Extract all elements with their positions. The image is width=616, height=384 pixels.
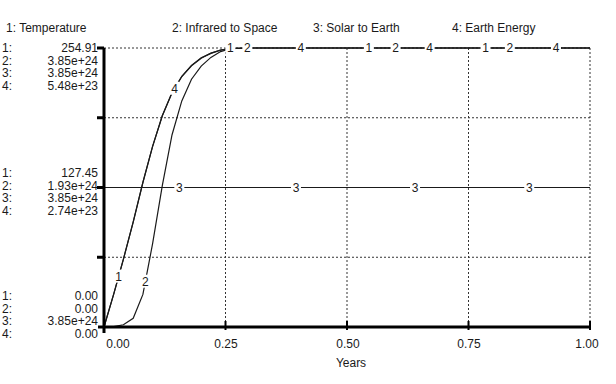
series-marker-2: 2	[392, 41, 399, 55]
series-marker-2: 2	[142, 275, 149, 289]
series-marker-3: 3	[176, 181, 183, 195]
x-tick-label: 0.00	[106, 337, 129, 351]
x-tick-label: 0.25	[214, 337, 237, 351]
series-marker-4: 4	[171, 82, 178, 96]
series-marker-4: 4	[553, 41, 560, 55]
x-tick-label: 0.50	[336, 337, 359, 351]
series-marker-3: 3	[412, 181, 419, 195]
series-marker-1: 1	[366, 41, 373, 55]
series-marker-2: 2	[506, 41, 513, 55]
series-marker-2: 2	[244, 41, 251, 55]
series-marker-1: 1	[482, 41, 489, 55]
series-marker-1: 1	[115, 270, 122, 284]
x-tick-label: 1.00	[575, 337, 598, 351]
series-marker-1: 1	[227, 41, 234, 55]
plot-area: 1111222233334444	[0, 0, 616, 384]
series-marker-3: 3	[293, 181, 300, 195]
line-chart: 1: Temperature 2: Infrared to Space 3: S…	[0, 0, 616, 384]
x-tick-label: 0.75	[457, 337, 480, 351]
series-marker-4: 4	[426, 41, 433, 55]
series-marker-4: 4	[297, 41, 304, 55]
series-marker-3: 3	[526, 181, 533, 195]
x-axis-label: Years	[336, 356, 366, 370]
